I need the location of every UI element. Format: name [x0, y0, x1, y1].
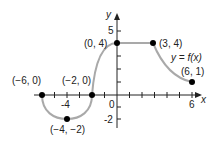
point-neg4-neg2: [64, 116, 70, 122]
label-point-6-1: (6, 1): [181, 66, 204, 77]
label-point-neg6-0: (−6, 0): [12, 75, 41, 86]
x-tick-label-6: 6: [189, 99, 195, 110]
point-6-1: [189, 79, 195, 85]
function-graph: (−6, 0) (−4, −2) (−2, 0) (0, 4) (3, 4) (…: [0, 0, 216, 146]
y-tick-label-5: 5: [108, 25, 114, 36]
y-tick-label-neg2: -2: [104, 114, 113, 125]
y-axis-arrow-icon: [114, 13, 120, 20]
function-label: y = f(x): [170, 52, 202, 63]
point-0-4: [114, 40, 120, 46]
label-point-neg2-0: (−2, 0): [62, 75, 91, 86]
x-tick-label-0: 0: [109, 99, 115, 110]
label-point-3-4: (3, 4): [159, 38, 182, 49]
label-point-neg4-neg2: (−4, −2): [50, 124, 85, 135]
point-3-4: [150, 40, 156, 46]
y-axis-label: y: [105, 9, 112, 20]
x-tick-label-neg4: -4: [61, 99, 70, 110]
label-point-0-4: (0, 4): [84, 38, 107, 49]
point-neg6-0: [39, 92, 45, 98]
x-axis-label: x: [200, 94, 207, 105]
point-neg2-0: [89, 92, 95, 98]
